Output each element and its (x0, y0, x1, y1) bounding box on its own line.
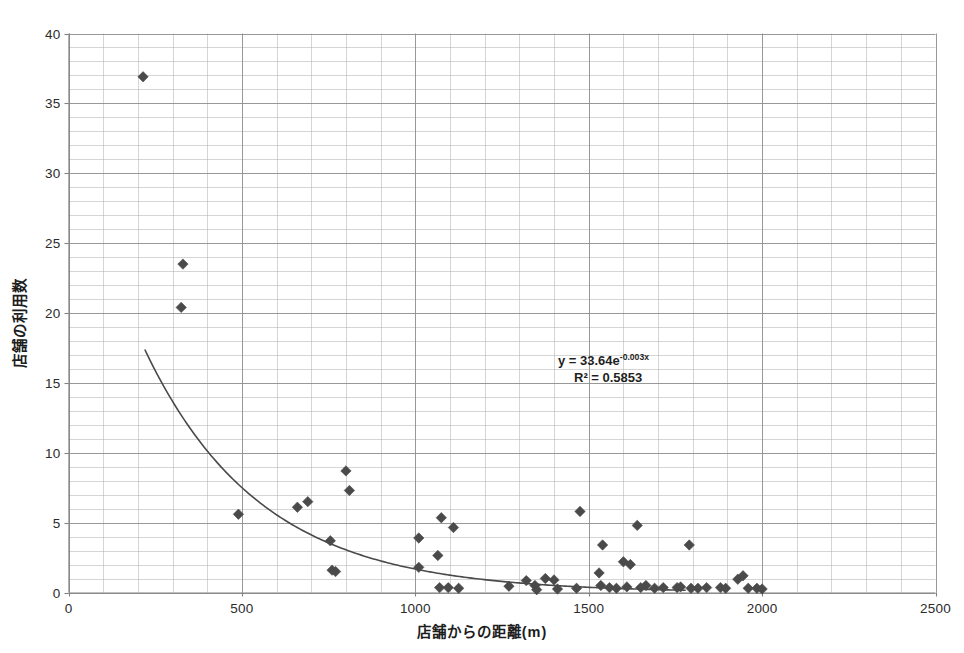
equation-exponent: -0.003x (620, 352, 649, 362)
data-point (575, 506, 585, 516)
data-point (436, 513, 446, 523)
data-point (443, 582, 453, 592)
data-point (597, 540, 607, 550)
y-tick-label: 40 (23, 26, 61, 41)
data-point (292, 502, 302, 512)
trendline-equation-annotation: y = 33.64e-0.003x (558, 352, 649, 368)
data-point (684, 540, 694, 550)
y-tick-label: 30 (23, 166, 61, 181)
y-tick-label: 0 (23, 585, 61, 600)
x-tick-label: 2500 (920, 601, 951, 616)
data-point (611, 583, 621, 593)
x-axis-title: 店舗からの距離(m) (0, 620, 964, 641)
data-point (596, 580, 606, 590)
data-point (701, 582, 711, 592)
data-point (632, 520, 642, 530)
data-point (693, 583, 703, 593)
data-point (176, 302, 186, 312)
equation-base: y = 33.64e (558, 353, 620, 368)
plot-canvas (0, 0, 964, 653)
y-axis-title: 店舗の利用数 (8, 243, 29, 403)
data-point (453, 583, 463, 593)
x-tick-label: 500 (230, 601, 253, 616)
data-point-series (138, 72, 767, 595)
tick-marks (65, 35, 937, 597)
data-point (658, 582, 668, 592)
r-squared-annotation: R² = 0.5853 (574, 370, 642, 385)
y-tick-label: 35 (23, 96, 61, 111)
data-point (344, 485, 354, 495)
y-tick-label: 10 (23, 445, 61, 460)
data-point (178, 259, 188, 269)
data-point (571, 583, 581, 593)
scatter-chart: 0510152025303540 05001000150020002500 y … (0, 0, 964, 653)
minor-gridlines (69, 34, 936, 593)
data-point (138, 72, 148, 82)
data-point (594, 568, 604, 578)
x-tick-label: 1000 (400, 601, 431, 616)
x-tick-label: 1500 (573, 601, 604, 616)
data-point (540, 573, 550, 583)
y-tick-label: 5 (23, 515, 61, 530)
x-tick-label: 0 (65, 601, 73, 616)
x-tick-label: 2000 (747, 601, 778, 616)
